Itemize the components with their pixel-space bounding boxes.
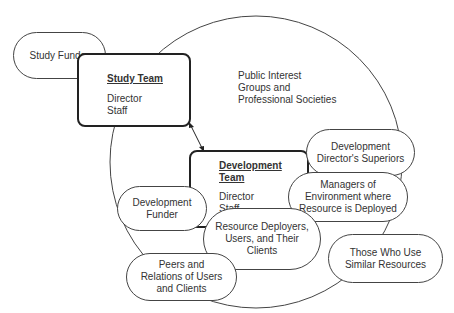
public-interest-line-3: Professional Societies	[238, 94, 336, 106]
similar-users-line-1: Those Who Use	[350, 247, 422, 259]
bidirectional-arrow	[191, 126, 202, 148]
study-team-title: Study Team	[107, 73, 189, 85]
managers-line-1: Managers of	[320, 179, 376, 191]
node-peers-relations: Peers and Relations of Users and Clients	[126, 253, 237, 301]
dev-superiors-line-1: Development	[331, 141, 390, 153]
public-interest-line-2: Groups and	[238, 82, 336, 94]
deployers-line-1: Resource Deployers,	[215, 221, 308, 233]
peers-line-3: and Clients	[156, 283, 206, 295]
node-dev-director-superiors: Development Director's Superiors	[306, 129, 415, 176]
public-interest-label: Public Interest Groups and Professional …	[238, 70, 336, 106]
study-team-director: Director	[107, 93, 189, 105]
node-development-funder: Development Funder	[117, 186, 207, 231]
deployers-line-3: Clients	[247, 245, 278, 257]
deployers-line-2: Users, and Their	[225, 233, 299, 245]
public-interest-line-1: Public Interest	[238, 70, 336, 82]
managers-line-2: Environment where	[305, 191, 391, 203]
dev-superiors-line-2: Director's Superiors	[317, 153, 405, 165]
study-team-staff: Staff	[107, 105, 189, 117]
managers-line-3: Resource is Deployed	[299, 203, 397, 215]
node-similar-resource-users: Those Who Use Similar Resources	[328, 234, 443, 283]
dev-funder-line-2: Funder	[146, 209, 178, 221]
peers-line-1: Peers and	[159, 259, 205, 271]
similar-users-line-2: Similar Resources	[345, 259, 426, 271]
peers-line-2: Relations of Users	[141, 271, 223, 283]
node-study-team: Study Team Director Staff	[77, 53, 191, 127]
dev-funder-line-1: Development	[133, 197, 192, 209]
